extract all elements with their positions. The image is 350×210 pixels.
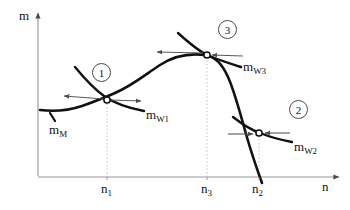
circled-marker-1: 1 xyxy=(92,63,111,82)
x-tick-n1-sub: 1 xyxy=(108,188,113,198)
x-tick-label-n3: n3 xyxy=(201,180,212,198)
arrow-point3-left xyxy=(157,52,203,53)
arrow-point3-inward xyxy=(212,55,243,56)
leader-mM xyxy=(50,113,55,121)
marker-point-2 xyxy=(256,130,262,136)
label-leader-lines xyxy=(50,113,55,121)
stability-diagram-figure: m n n1 n3 n2 mM mW1 mW3 mW2 1 3 2 xyxy=(0,0,350,210)
curve-label-mM-sub: M xyxy=(59,129,67,139)
x-axis-label: n xyxy=(322,180,329,193)
x-tick-label-n1: n1 xyxy=(101,180,112,198)
x-tick-n2-sub: 2 xyxy=(259,188,264,198)
curve-label-mW3: mW3 xyxy=(243,58,266,76)
curve-label-mW2: mW2 xyxy=(294,138,317,156)
marker-point-1 xyxy=(104,97,110,103)
curve-label-mW3-base: m xyxy=(243,59,253,74)
curve-label-mW1-sub: W1 xyxy=(156,114,169,124)
stability-arrows-point-1 xyxy=(64,96,141,101)
x-tick-label-n2: n2 xyxy=(252,180,263,198)
marker-point-3 xyxy=(204,52,210,58)
arrow-point1-left xyxy=(64,96,104,99)
curve-label-mW1-base: m xyxy=(146,107,156,122)
circled-marker-2: 2 xyxy=(289,100,308,119)
curve-label-mM-base: m xyxy=(49,122,59,137)
curve-label-mW3-sub: W3 xyxy=(253,66,266,76)
gridline-group xyxy=(107,55,259,177)
circled-marker-3: 3 xyxy=(218,20,237,39)
curve-label-mW2-base: m xyxy=(294,139,304,154)
x-tick-n3-sub: 3 xyxy=(208,188,213,198)
curve-label-mW2-sub: W2 xyxy=(304,146,317,156)
curve-label-mW1: mW1 xyxy=(146,106,169,124)
intersection-markers xyxy=(104,52,262,136)
y-axis-label: m xyxy=(19,9,29,22)
curve-label-mM: mM xyxy=(49,121,67,139)
